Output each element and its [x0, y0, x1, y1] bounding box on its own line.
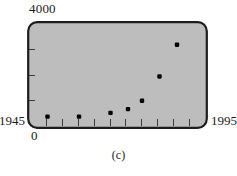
y-axis-min-label: 0	[31, 129, 38, 143]
data-point-marker	[45, 114, 49, 118]
scatter-plot	[27, 21, 208, 129]
data-point-marker	[126, 107, 130, 111]
plot-frame	[28, 22, 207, 128]
x-axis-max-label: 1995	[211, 114, 237, 128]
figure-caption: (c)	[0, 148, 237, 162]
data-point-marker	[175, 43, 179, 47]
data-point-marker	[108, 111, 112, 115]
y-axis-max-label: 4000	[29, 2, 56, 16]
data-point-marker	[157, 74, 161, 78]
x-axis-min-label: 1945	[0, 114, 25, 128]
data-point-marker	[140, 99, 144, 103]
plot-area	[27, 21, 208, 129]
figure-panel-c: 4000 0 1945 1995 (c)	[0, 0, 237, 176]
data-point-marker	[77, 114, 81, 118]
